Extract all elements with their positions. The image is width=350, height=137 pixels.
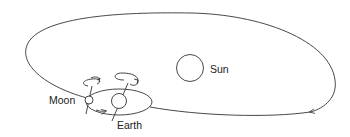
- earth-label: Earth: [117, 119, 142, 131]
- moon-spin-arrow-icon: [83, 77, 99, 86]
- earth: Earth: [112, 73, 143, 131]
- moon-label: Moon: [49, 94, 75, 106]
- sun: Sun: [177, 55, 229, 82]
- earth-spin-arrowhead-icon: [134, 79, 138, 84]
- sun-earth-moon-diagram: Sun Moon Earth: [0, 0, 350, 137]
- sun-label: Sun: [210, 63, 229, 75]
- moon-circle: [85, 96, 93, 104]
- moon: Moon: [49, 77, 100, 114]
- sun-circle: [177, 55, 204, 82]
- earth-circle: [112, 94, 127, 109]
